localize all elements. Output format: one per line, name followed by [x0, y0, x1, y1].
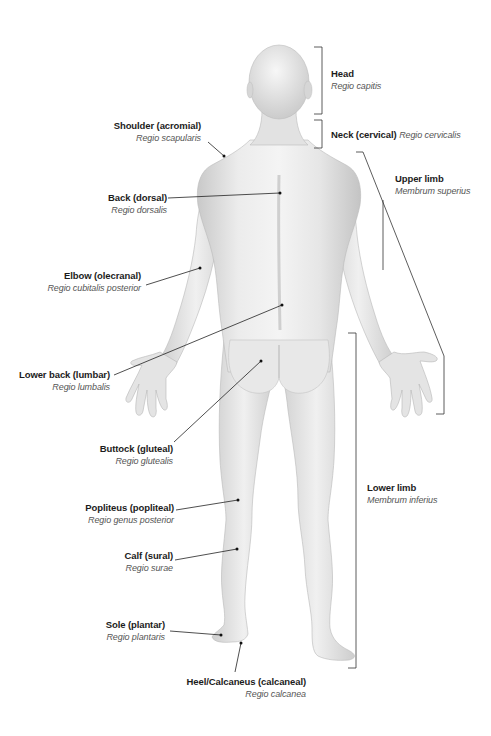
label-neck-latin: Regio cervicalis: [399, 130, 460, 140]
label-neck-name: Neck (cervical): [331, 129, 399, 140]
label-back: Back (dorsal) Regio dorsalis: [108, 192, 167, 216]
label-head: Head Regio capitis: [331, 68, 381, 92]
label-upper-limb-latin: Membrum superius: [395, 185, 470, 197]
torso: [197, 140, 360, 393]
label-elbow: Elbow (olecranal) Regio cubitalis poster…: [47, 270, 141, 294]
label-back-name: Back (dorsal): [108, 192, 167, 204]
label-sole-name: Sole (plantar): [106, 619, 165, 631]
label-lower-back-name: Lower back (lumbar): [19, 369, 110, 381]
body-figure: [0, 0, 491, 736]
label-elbow-name: Elbow (olecranal): [47, 270, 141, 282]
label-buttock: Buttock (gluteal) Regio glutealis: [100, 443, 173, 467]
label-calf-latin: Regio surae: [125, 562, 173, 574]
label-buttock-name: Buttock (gluteal): [100, 443, 173, 455]
label-lower-back: Lower back (lumbar) Regio lumbalis: [19, 369, 110, 393]
label-buttock-latin: Regio glutealis: [100, 455, 173, 467]
label-head-name: Head: [331, 68, 381, 80]
label-popliteus: Popliteus (popliteal) Regio genus poster…: [85, 502, 174, 526]
label-popliteus-latin: Regio genus posterior: [85, 514, 174, 526]
legs: [212, 340, 355, 660]
head: [247, 45, 312, 119]
label-shoulder-latin: Regio scapularis: [114, 132, 201, 144]
label-lower-limb-name: Lower limb: [367, 482, 437, 494]
label-calf: Calf (sural) Regio surae: [125, 550, 173, 574]
label-elbow-latin: Regio cubitalis posterior: [47, 282, 141, 294]
label-upper-limb-name: Upper limb: [395, 173, 470, 185]
label-shoulder-name: Shoulder (acromial): [114, 120, 201, 132]
label-back-latin: Regio dorsalis: [108, 204, 167, 216]
label-lower-limb-latin: Membrum inferius: [367, 494, 437, 506]
label-heel-name: Heel/Calcaneus (calcaneal): [187, 676, 306, 688]
label-sole-latin: Regio plantaris: [106, 631, 165, 643]
label-calf-name: Calf (sural): [125, 550, 173, 562]
anatomy-diagram: Shoulder (acromial) Regio scapularis Bac…: [0, 0, 491, 736]
label-upper-limb: Upper limb Membrum superius: [395, 173, 470, 197]
label-heel-latin: Regio calcanea: [187, 688, 306, 700]
label-popliteus-name: Popliteus (popliteal): [85, 502, 174, 514]
label-neck: Neck (cervical) Regio cervicalis: [331, 127, 461, 141]
label-heel: Heel/Calcaneus (calcaneal) Regio calcane…: [187, 676, 306, 700]
label-lower-back-latin: Regio lumbalis: [19, 381, 110, 393]
label-head-latin: Regio capitis: [331, 80, 381, 92]
label-sole: Sole (plantar) Regio plantaris: [106, 619, 165, 643]
label-lower-limb: Lower limb Membrum inferius: [367, 482, 437, 506]
label-shoulder: Shoulder (acromial) Regio scapularis: [114, 120, 201, 144]
